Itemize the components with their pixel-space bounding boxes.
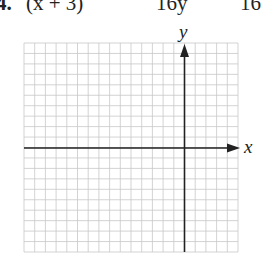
y-axis-label: y <box>179 21 187 43</box>
y-axis-arrow-icon <box>180 44 189 57</box>
x-axis-label: x <box>244 136 252 158</box>
coordinate-grid <box>0 0 263 256</box>
